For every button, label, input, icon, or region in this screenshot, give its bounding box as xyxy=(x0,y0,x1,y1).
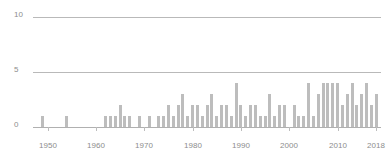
bar xyxy=(220,105,223,127)
x-axis-tick xyxy=(338,127,339,131)
bar xyxy=(293,105,296,127)
bar xyxy=(186,116,189,127)
bar xyxy=(104,116,107,127)
x-axis-label: 1980 xyxy=(184,141,202,150)
bar xyxy=(210,94,213,127)
bar xyxy=(172,116,175,127)
bar xyxy=(302,116,305,127)
x-axis-tick xyxy=(376,127,377,131)
bar xyxy=(206,105,209,127)
bar xyxy=(365,83,368,127)
bar xyxy=(138,116,141,127)
bar xyxy=(249,105,252,127)
bar xyxy=(230,116,233,127)
bar xyxy=(317,94,320,127)
bar xyxy=(65,116,68,127)
x-axis-label: 2018 xyxy=(367,141,385,150)
bar xyxy=(123,116,126,127)
bar xyxy=(268,94,271,127)
bar xyxy=(355,105,358,127)
bar xyxy=(167,105,170,127)
x-axis-label: 1970 xyxy=(135,141,153,150)
x-axis-tick xyxy=(241,127,242,131)
bar xyxy=(128,116,131,127)
x-axis-tick xyxy=(289,127,290,131)
x-axis-tick xyxy=(48,127,49,131)
bar xyxy=(162,116,165,127)
bar xyxy=(181,94,184,127)
bar xyxy=(41,116,44,127)
bar xyxy=(351,83,354,127)
x-axis-label: 1950 xyxy=(39,141,57,150)
x-axis-label: 2000 xyxy=(280,141,298,150)
bar xyxy=(201,116,204,127)
bar xyxy=(215,116,218,127)
x-axis-tick xyxy=(96,127,97,131)
bar xyxy=(322,83,325,127)
x-axis-label: 1960 xyxy=(87,141,105,150)
bar xyxy=(312,116,315,127)
bar xyxy=(235,83,238,127)
bar xyxy=(278,105,281,127)
bar xyxy=(331,83,334,127)
bar xyxy=(119,105,122,127)
bar xyxy=(336,83,339,127)
bar xyxy=(297,116,300,127)
bar xyxy=(191,105,194,127)
bar xyxy=(273,116,276,127)
bar xyxy=(225,105,228,127)
bar xyxy=(244,116,247,127)
bar xyxy=(259,116,262,127)
x-axis-tick xyxy=(144,127,145,131)
bar xyxy=(148,116,151,127)
bar xyxy=(375,94,378,127)
bar xyxy=(283,105,286,127)
bar xyxy=(109,116,112,127)
x-axis-tick xyxy=(193,127,194,131)
bar xyxy=(177,105,180,127)
bar xyxy=(239,105,242,127)
bar xyxy=(326,83,329,127)
bar xyxy=(370,105,373,127)
bar xyxy=(157,116,160,127)
bar xyxy=(254,105,257,127)
bar xyxy=(264,116,267,127)
bar xyxy=(307,83,310,127)
bar xyxy=(360,94,363,127)
x-axis-label: 2010 xyxy=(329,141,347,150)
bar xyxy=(346,94,349,127)
bar-series xyxy=(0,0,388,163)
histogram-chart: 10 5 0 19501960197019801990200020102018 xyxy=(0,0,388,163)
x-axis-label: 1990 xyxy=(232,141,250,150)
bar xyxy=(196,105,199,127)
bar xyxy=(114,116,117,127)
bar xyxy=(341,105,344,127)
